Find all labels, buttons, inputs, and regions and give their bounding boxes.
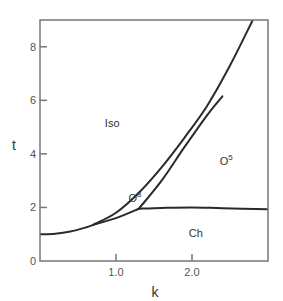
region-label-o5: O5 <box>220 153 234 167</box>
phase-boundary-line-3 <box>139 96 223 208</box>
phase-diagram: 02468 1.02.0 t k IsoO8O5Ch <box>0 0 283 301</box>
x-axis-ticks: 1.02.0 <box>108 254 199 278</box>
x-tick-label: 2.0 <box>184 266 199 278</box>
phase-boundary-line-4 <box>139 207 268 209</box>
y-tick-label: 2 <box>30 201 36 213</box>
y-tick-label: 4 <box>30 148 36 160</box>
region-label-ch: Ch <box>189 227 203 239</box>
y-tick-label: 8 <box>30 41 36 53</box>
region-label-iso: Iso <box>105 117 120 129</box>
phase-boundary-line-2 <box>93 209 139 225</box>
phase-boundary-line-0 <box>40 225 93 234</box>
x-axis-title: k <box>152 284 160 300</box>
region-label-o8: O8 <box>128 190 142 204</box>
y-tick-label: 6 <box>30 94 36 106</box>
x-tick-label: 1.0 <box>108 266 123 278</box>
region-labels: IsoO8O5Ch <box>105 117 233 239</box>
y-axis-title: t <box>12 137 16 153</box>
phase-boundaries <box>40 20 268 234</box>
y-tick-label: 0 <box>30 255 36 267</box>
y-axis-ticks: 02468 <box>30 41 47 267</box>
